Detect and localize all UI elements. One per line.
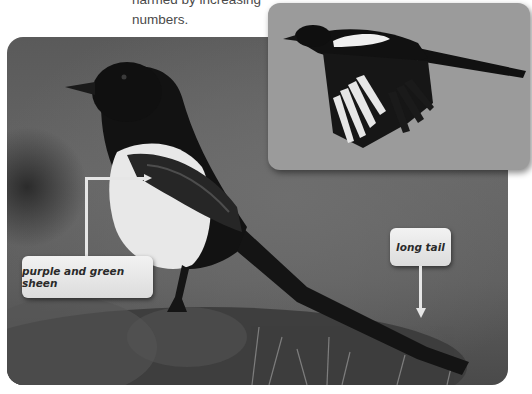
arrow-down-icon [416, 308, 426, 318]
label-tail-text: long tail [396, 241, 445, 253]
tail-connector-vertical [419, 266, 422, 310]
sheen-connector-horizontal [85, 177, 147, 180]
intro-text: harmed by increasing numbers. [132, 0, 282, 30]
intro-line-2: numbers. [132, 10, 282, 30]
label-long-tail: long tail [390, 228, 451, 266]
sheen-connector-vertical [85, 177, 88, 256]
label-purple-green-sheen: purple and green sheen [22, 256, 153, 298]
inset-photo-flying-magpie [268, 3, 530, 170]
flying-magpie-illustration [268, 3, 530, 170]
arrow-right-icon [144, 174, 152, 182]
intro-line-1: harmed by increasing [132, 0, 282, 10]
label-sheen-text: purple and green sheen [22, 265, 153, 289]
